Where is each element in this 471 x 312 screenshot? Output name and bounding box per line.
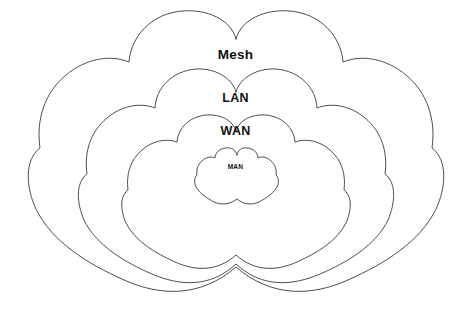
cloud-label-lan: LAN: [0, 91, 471, 105]
cloud-diagram: Mesh LAN WAN MAN: [0, 0, 471, 312]
cloud-label-wan: WAN: [0, 124, 471, 138]
cloud-label-man: MAN: [0, 163, 471, 170]
cloud-label-mesh: Mesh: [0, 47, 471, 62]
